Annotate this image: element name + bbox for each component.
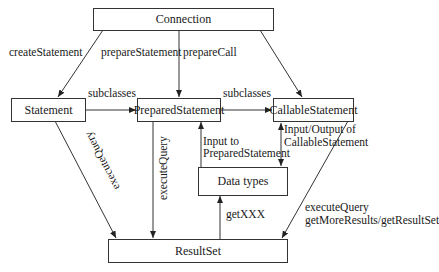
node-data-types: Data types <box>198 167 288 196</box>
node-callable-statement-label: CallableStatement <box>270 103 358 118</box>
label-ps-execute-query: executeQuery <box>157 136 169 200</box>
label-create-statement: createStatement <box>9 46 82 59</box>
label-io-cs-1: Input/Output of <box>284 123 356 136</box>
label-cs-results-1: executeQuery <box>305 201 369 214</box>
node-prepared-statement: PreparedStatement <box>137 98 221 122</box>
label-cs-results-2: getMoreResults/getResultSet <box>305 214 439 227</box>
label-subclasses-2: subclasses <box>223 87 271 100</box>
node-connection-label: Connection <box>156 12 211 27</box>
label-prepare-call: prepareCall <box>183 46 237 59</box>
node-connection: Connection <box>93 8 274 31</box>
node-statement-label: Statement <box>25 103 73 118</box>
node-data-types-label: Data types <box>218 174 269 189</box>
node-prepared-statement-label: PreparedStatement <box>134 103 225 118</box>
node-result-set: ResultSet <box>108 239 288 263</box>
node-statement: Statement <box>11 98 86 122</box>
label-subclasses-1: subclasses <box>88 87 136 100</box>
label-get-xxx: getXXX <box>226 208 265 221</box>
node-result-set-label: ResultSet <box>175 244 221 259</box>
node-callable-statement: CallableStatement <box>273 98 354 122</box>
label-prepare-statement: prepareStatement <box>101 46 181 59</box>
label-io-cs-2: CallableStatement <box>284 136 368 149</box>
label-input-to-ps-2: PreparedStatement <box>203 147 290 160</box>
